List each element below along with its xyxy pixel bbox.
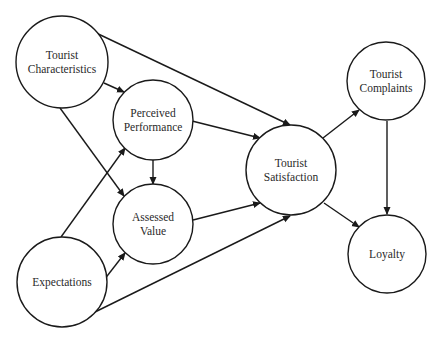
nodes-layer: TouristCharacteristicsPerceivedPerforman… (16, 16, 426, 327)
arrow-tourist-satisfaction-to-tourist-complaints (323, 110, 359, 138)
node-circle (347, 42, 425, 120)
node-circle (16, 16, 108, 108)
node-expectations: Expectations (17, 237, 107, 327)
node-label: Loyalty (369, 248, 405, 261)
node-label: Characteristics (28, 63, 97, 75)
node-label: Perceived (130, 107, 176, 119)
node-perceived-performance: PerceivedPerformance (113, 80, 193, 160)
node-label: Assessed (132, 211, 174, 223)
node-assessed-value: AssessedValue (113, 184, 193, 264)
path-model-diagram: TouristCharacteristicsPerceivedPerforman… (0, 0, 441, 338)
arrow-tourist-characteristics-to-perceived-performance (104, 83, 124, 92)
arrow-assessed-value-to-tourist-satisfaction (193, 203, 260, 220)
node-label: Performance (124, 121, 183, 133)
node-label: Value (140, 225, 166, 237)
node-tourist-complaints: TouristComplaints (347, 42, 425, 120)
node-label: Tourist (46, 49, 79, 61)
node-label: Tourist (370, 68, 403, 80)
node-circle (246, 125, 336, 215)
node-label: Satisfaction (264, 171, 319, 183)
node-loyalty: Loyalty (348, 215, 426, 293)
node-circle (113, 80, 193, 160)
node-tourist-satisfaction: TouristSatisfaction (246, 125, 336, 215)
node-label: Expectations (32, 276, 92, 289)
node-label: Complaints (359, 82, 413, 95)
node-circle (113, 184, 193, 264)
arrow-tourist-satisfaction-to-loyalty (324, 203, 359, 227)
node-tourist-characteristics: TouristCharacteristics (16, 16, 108, 108)
arrow-perceived-performance-to-tourist-satisfaction (192, 121, 260, 138)
node-label: Tourist (275, 157, 308, 169)
edges-layer (60, 31, 387, 312)
